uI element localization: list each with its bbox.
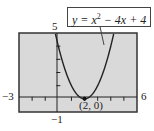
y-min-label: −1	[51, 114, 63, 125]
equation-text: y = x	[72, 13, 97, 27]
x-min-label: −3	[2, 91, 14, 102]
y-max-label: 5	[52, 21, 58, 32]
equation-callout: y = x2 − 4x + 4	[67, 7, 151, 27]
screen-frame	[19, 33, 137, 112]
equation-text-rest: − 4x + 4	[101, 13, 147, 27]
x-max-label: 6	[141, 91, 147, 102]
vertex-label: (2, 0)	[79, 100, 103, 111]
